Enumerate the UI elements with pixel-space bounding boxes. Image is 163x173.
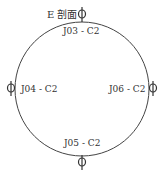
label-right: J06 - C2	[109, 84, 145, 94]
section-title: E 剖面	[47, 9, 77, 20]
marker-right-icon	[150, 81, 157, 96]
section-diagram: E 剖面 J03 - C2 J04 - C2 J06 - C2 J05 - C2	[0, 0, 163, 173]
marker-bottom-icon	[79, 155, 86, 170]
label-left: J04 - C2	[21, 84, 57, 94]
label-top: J03 - C2	[63, 26, 99, 36]
label-bottom: J05 - C2	[64, 138, 100, 148]
marker-top-icon	[79, 7, 86, 22]
marker-left-icon	[8, 81, 15, 96]
